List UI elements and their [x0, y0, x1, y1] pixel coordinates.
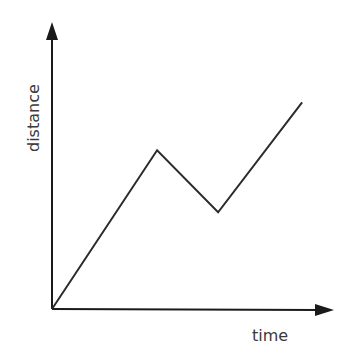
x-axis-label: time — [252, 326, 288, 345]
y-axis-label: distance — [24, 84, 43, 152]
distance-time-graph: time distance — [0, 0, 352, 361]
y-axis-arrow-icon — [46, 22, 58, 40]
distance-time-line — [52, 102, 302, 309]
x-axis — [52, 309, 318, 310]
x-axis-arrow-icon — [315, 304, 334, 316]
chart-svg: time distance — [0, 0, 352, 361]
